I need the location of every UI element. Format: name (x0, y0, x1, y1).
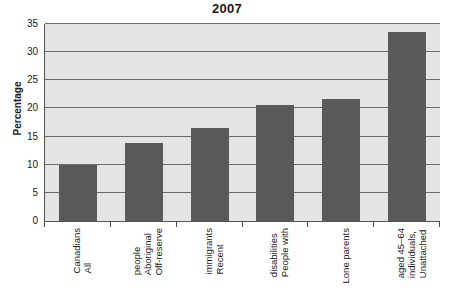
y-tick-label: 25 (14, 75, 38, 85)
y-tick-label: 20 (14, 103, 38, 113)
x-category-label: AllCanadians (71, 228, 93, 273)
x-tick-mark (44, 222, 45, 227)
x-category-label-line: Off-reserve (153, 228, 164, 275)
x-tick-mark (307, 222, 308, 227)
bar-slot (177, 24, 243, 221)
x-category-label-line: People with (279, 228, 290, 277)
x-category-label: Unattachedindividuals,aged 45–64 (395, 228, 428, 278)
x-tick-mark (110, 222, 111, 227)
x-label-slot: AllCanadians (44, 228, 110, 308)
chart-title: 2007 (0, 1, 454, 16)
y-axis-tick-labels: 05101520253035 (14, 24, 38, 221)
x-tick-mark (373, 222, 374, 227)
bar-chart: 2007 Percentage 05101520253035 AllCanadi… (0, 0, 454, 308)
y-tick-label: 0 (14, 216, 38, 226)
x-label-slot: Lone parents (307, 228, 373, 308)
plot-area (44, 24, 440, 222)
x-category-label-line: people (131, 228, 142, 275)
y-tick-label: 10 (14, 160, 38, 170)
x-axis-tickmarks (44, 222, 439, 227)
y-tick-label: 5 (14, 188, 38, 198)
x-category-label-line: Canadians (71, 228, 82, 273)
x-category-label-line: Unattached (417, 228, 428, 278)
bar[interactable] (388, 32, 426, 221)
bar[interactable] (59, 165, 97, 221)
x-category-label: People withdisabilities (268, 228, 290, 277)
x-category-label-line: All (82, 228, 93, 273)
bar-series (45, 24, 440, 221)
x-tick-mark (439, 222, 440, 227)
bar[interactable] (125, 143, 163, 221)
x-category-label-line: disabilities (268, 228, 279, 277)
x-tick-mark (176, 222, 177, 227)
y-tick-label: 35 (14, 19, 38, 29)
x-label-slot: People withdisabilities (241, 228, 307, 308)
x-category-label-line: immigrants (203, 228, 214, 274)
bar-slot (111, 24, 177, 221)
bar[interactable] (256, 105, 294, 221)
bar[interactable] (322, 99, 360, 221)
x-label-slot: Off-reserveAboriginalpeople (110, 228, 176, 308)
bar-slot (242, 24, 308, 221)
x-category-label: Lone parents (340, 228, 351, 283)
bar-slot (308, 24, 374, 221)
x-category-label-line: Recent (214, 228, 225, 274)
bar-slot (45, 24, 111, 221)
x-category-label-line: aged 45–64 (395, 228, 406, 278)
x-axis-category-labels: AllCanadiansOff-reserveAboriginalpeopleR… (44, 228, 439, 308)
bar[interactable] (191, 128, 229, 221)
y-tick-label: 30 (14, 47, 38, 57)
y-tick-label: 15 (14, 132, 38, 142)
x-category-label-line: Aboriginal (142, 228, 153, 275)
x-category-label-line: individuals, (406, 228, 417, 278)
x-category-label: Off-reserveAboriginalpeople (131, 228, 164, 275)
x-category-label-line: Lone parents (340, 228, 351, 283)
x-tick-mark (242, 222, 243, 227)
x-category-label: Recentimmigrants (203, 228, 225, 274)
x-label-slot: Recentimmigrants (176, 228, 242, 308)
x-label-slot: Unattachedindividuals,aged 45–64 (373, 228, 439, 308)
bar-slot (374, 24, 440, 221)
